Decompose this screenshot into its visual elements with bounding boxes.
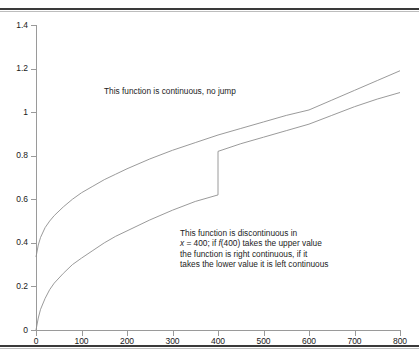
page-rule-top-thin: [0, 11, 419, 12]
curve-discontinuous: [36, 93, 400, 330]
annotation-line-2-suffix: (400) takes the upper value: [221, 238, 322, 248]
page-rule-bottom-thin: [0, 348, 419, 349]
annotation-line-2-mid: = 400; if: [184, 238, 218, 248]
annotation-line-1: This function is discontinuous in: [180, 228, 329, 238]
annotation-continuous: This function is continuous, no jump: [104, 86, 236, 96]
page-rule-top: [0, 8, 419, 10]
annotation-line-4: takes the lower value it is left continu…: [180, 259, 329, 269]
curves-layer: [0, 14, 419, 344]
annotation-line-2: x = 400; if f(400) takes the upper value: [180, 238, 329, 248]
page-rule-bottom: [0, 345, 419, 347]
chart-figure: 00.20.40.60.811.21.4 0100200300400500600…: [0, 14, 419, 344]
annotation-line-3: the function is right continuous, if it: [180, 249, 329, 259]
figure-page: 00.20.40.60.811.21.4 0100200300400500600…: [0, 0, 419, 363]
annotation-discontinuous: This function is discontinuous in x = 40…: [180, 228, 329, 269]
